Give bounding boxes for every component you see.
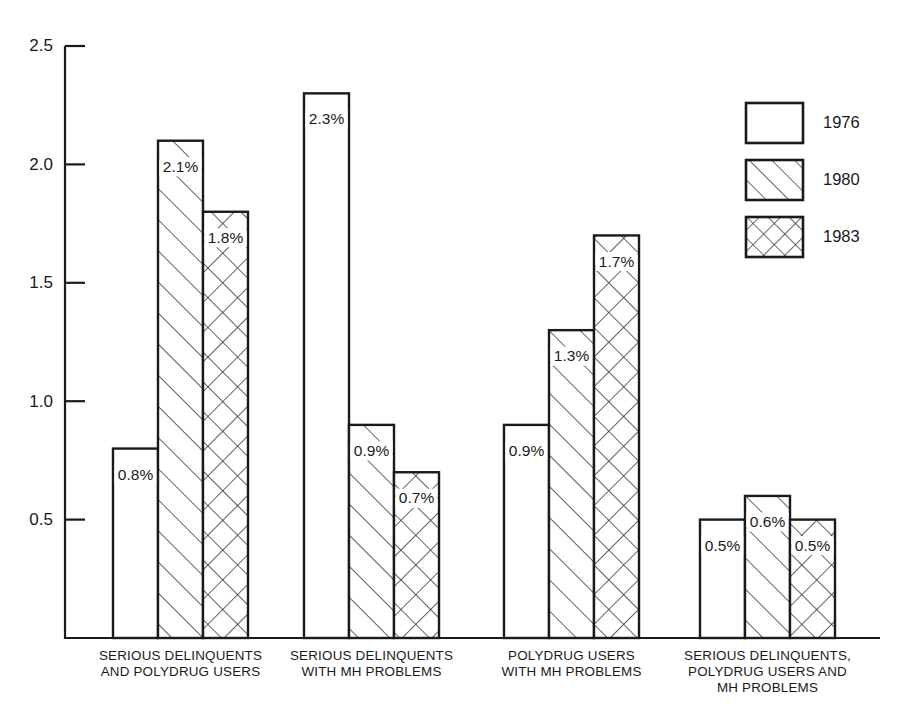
- category-label-3: POLYDRUG USERS: [508, 648, 635, 663]
- bar-value-label: 0.9%: [509, 442, 545, 459]
- chart-canvas: 0.51.01.52.02.5 0.8%2.1%1.8%2.3%0.9%0.7%…: [0, 0, 914, 716]
- category-label-1: SERIOUS DELINQUENTS: [99, 648, 262, 663]
- bar-value-label: 0.5%: [795, 537, 831, 554]
- y-tick-label: 0.5: [29, 510, 53, 529]
- category-label-2: SERIOUS DELINQUENTS: [290, 648, 453, 663]
- category-label-4: POLYDRUG USERS AND: [688, 664, 847, 679]
- bar-1976-group-2: [304, 93, 349, 638]
- bar-value-label: 0.6%: [750, 513, 786, 530]
- y-axis-ticks: [65, 46, 85, 520]
- bar-value-label: 0.8%: [118, 466, 154, 483]
- bar-value-label: 1.8%: [208, 229, 244, 246]
- category-label-3: WITH MH PROBLEMS: [501, 664, 641, 679]
- legend-label-1983: 1983: [823, 227, 860, 245]
- category-label-1: AND POLYDRUG USERS: [101, 664, 261, 679]
- category-label-4: SERIOUS DELINQUENTS,: [684, 648, 851, 663]
- chart-legend: 197619801983: [746, 103, 860, 257]
- bar-series-group: 0.8%2.1%1.8%2.3%0.9%0.7%0.9%1.3%1.7%0.5%…: [113, 93, 835, 638]
- bar-value-label: 0.9%: [354, 442, 390, 459]
- legend-label-1976: 1976: [823, 113, 860, 131]
- bar-chart: 0.51.01.52.02.5 0.8%2.1%1.8%2.3%0.9%0.7%…: [0, 0, 914, 716]
- legend-swatch-1980: [746, 160, 803, 200]
- bar-1980-group-1: [158, 141, 203, 638]
- bar-value-label: 2.1%: [163, 158, 199, 175]
- legend-label-1980: 1980: [823, 170, 860, 188]
- bar-1980-group-3: [549, 330, 594, 638]
- category-label-2: WITH MH PROBLEMS: [301, 664, 441, 679]
- y-tick-label: 2.0: [29, 155, 53, 174]
- bar-value-label: 0.5%: [705, 537, 741, 554]
- x-axis-category-labels: SERIOUS DELINQUENTSAND POLYDRUG USERSSER…: [99, 648, 851, 695]
- bar-value-label: 1.3%: [554, 347, 590, 364]
- y-tick-label: 1.0: [29, 392, 53, 411]
- category-label-4: MH PROBLEMS: [717, 680, 818, 695]
- bar-value-label: 1.7%: [599, 253, 635, 270]
- y-tick-label: 2.5: [29, 36, 53, 55]
- bar-1983-group-3: [594, 235, 639, 638]
- legend-swatch-1983: [746, 217, 803, 257]
- bar-1983-group-1: [203, 212, 248, 638]
- y-axis-tick-labels: 0.51.01.52.02.5: [29, 36, 53, 529]
- y-tick-label: 1.5: [29, 273, 53, 292]
- legend-swatch-1976: [746, 103, 803, 143]
- bar-value-label: 0.7%: [399, 489, 435, 506]
- bar-value-label: 2.3%: [309, 110, 345, 127]
